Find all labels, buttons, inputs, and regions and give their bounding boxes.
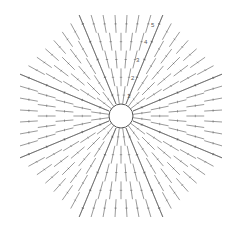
round-label-3: 3 [136, 57, 139, 63]
crochet-octagon-chart [0, 0, 235, 236]
round-label-5: 5 [151, 22, 154, 28]
round-label-2: 2 [131, 75, 134, 81]
round-label-4: 4 [144, 39, 147, 45]
round-label-1: 1 [127, 93, 130, 99]
